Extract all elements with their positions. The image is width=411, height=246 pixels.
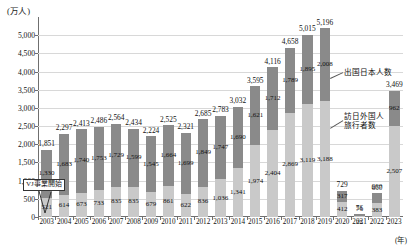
x-tick-label: 2007 — [109, 218, 123, 226]
bar-column[interactable]: 1,699622 — [181, 133, 191, 217]
x-tick-mark — [212, 217, 213, 220]
bar-column[interactable]: 1,7471,036 — [215, 116, 225, 217]
bar-segment-outbound[interactable]: 2,008 — [320, 28, 330, 101]
x-tick-mark — [299, 217, 300, 220]
x-tick-label: 2020 — [335, 218, 349, 226]
bar-column[interactable]: 1,664861 — [163, 125, 173, 217]
bar-segment-inbound[interactable]: 622 — [181, 194, 191, 217]
bar-total-label: 2,224 — [143, 127, 160, 134]
y-axis-unit-label: (万人) — [7, 4, 30, 16]
x-tick-label: 2015 — [248, 218, 262, 226]
bar-segment-inbound[interactable]: 733 — [94, 190, 104, 217]
bar-segment-inbound[interactable]: 835 — [128, 187, 138, 217]
bar-column[interactable]: 5125 — [354, 214, 364, 217]
x-tick-label: 2006 — [92, 218, 106, 226]
x-tick-label: 2005 — [74, 218, 88, 226]
bar-value-outbound: 1,664 — [160, 152, 176, 159]
y-tick-label: 500 — [24, 194, 35, 203]
bar-segment-outbound[interactable]: 1,621 — [250, 86, 260, 145]
bar-total-label: 2,564 — [108, 114, 125, 121]
bar-segment-inbound[interactable]: 412 — [337, 202, 347, 217]
bar-total-label: 2,321 — [177, 123, 194, 130]
y-tick-label: 2,000 — [18, 140, 35, 149]
bar-segment-outbound[interactable]: 962 — [389, 91, 399, 126]
bar-segment-inbound[interactable]: 2,404 — [267, 130, 277, 217]
bar-column[interactable]: 1,545679 — [146, 136, 156, 217]
x-tick-mark — [333, 217, 334, 220]
x-tick-mark — [73, 217, 74, 220]
bar-column[interactable]: 1,7122,404 — [267, 67, 277, 217]
bar-total-label: 4,116 — [264, 58, 280, 65]
bar-segment-outbound[interactable]: 1,729 — [111, 124, 121, 187]
bar-value-inbound: 3,119 — [300, 157, 316, 164]
x-tick-mark — [108, 217, 109, 220]
bar-segment-inbound[interactable]: 2,869 — [285, 113, 295, 217]
bar-value-outbound: 1,712 — [265, 95, 281, 102]
bar-segment-inbound[interactable]: 1,974 — [250, 145, 260, 217]
bar-column[interactable]: 1,753733 — [94, 127, 104, 217]
bar-value-outbound: 317 — [337, 193, 348, 200]
bar-total-label: 3,032 — [230, 97, 247, 104]
x-tick-label: 2012 — [196, 218, 210, 226]
bar-segment-outbound[interactable]: 1,699 — [181, 133, 191, 195]
bar-segment-inbound[interactable]: 2,507 — [389, 126, 399, 217]
bar-value-outbound: 1,747 — [213, 144, 229, 151]
bar-column[interactable]: 277383 — [372, 193, 382, 217]
bar-segment-inbound[interactable]: 836 — [198, 187, 208, 217]
bar-column[interactable]: 1,740673 — [76, 129, 86, 217]
bar-value-inbound: 622 — [180, 202, 191, 209]
bar-total-label: 2,434 — [125, 119, 142, 126]
bar-segment-inbound[interactable]: 835 — [111, 187, 121, 217]
x-tick-mark — [90, 217, 91, 220]
bar-segment-outbound[interactable]: 1,599 — [128, 129, 138, 187]
bar-segment-outbound[interactable]: 1,747 — [215, 116, 225, 180]
x-tick-mark — [177, 217, 178, 220]
bar-total-label: 2,413 — [73, 120, 90, 127]
x-tick-label: 2019 — [318, 218, 332, 226]
bar-segment-inbound[interactable]: 673 — [76, 193, 86, 217]
bar-segment-outbound[interactable]: 1,753 — [94, 127, 104, 191]
bar-value-inbound: 835 — [128, 198, 139, 205]
bar-segment-inbound[interactable]: 1,341 — [233, 168, 243, 217]
bar-column[interactable]: 1,729835 — [111, 124, 121, 217]
bar-column[interactable]: 9622,507 — [389, 91, 399, 217]
bar-segment-outbound[interactable]: 1,789 — [285, 48, 295, 113]
bar-column[interactable]: 1,7892,869 — [285, 48, 295, 217]
bar-segment-outbound[interactable]: 1,740 — [76, 129, 86, 192]
bar-value-outbound: 1,690 — [230, 134, 246, 141]
bar-total-label: 76 — [356, 205, 363, 212]
x-tick-label: 2021 — [352, 218, 366, 226]
x-tick-label: 2022 — [370, 218, 384, 226]
bar-segment-inbound[interactable]: 861 — [163, 186, 173, 217]
bar-segment-outbound[interactable]: 1,895 — [302, 35, 312, 104]
bar-column[interactable]: 1,6901,341 — [233, 107, 243, 217]
bar-segment-outbound[interactable]: 1,545 — [146, 136, 156, 192]
bar-column[interactable]: 1,849836 — [198, 119, 208, 217]
bar-value-outbound: 1,729 — [108, 152, 124, 159]
bar-total-label: 3,595 — [247, 77, 264, 84]
bar-segment-inbound[interactable]: 3,119 — [302, 104, 312, 217]
bar-value-inbound: 2,869 — [282, 161, 298, 168]
bar-segment-outbound[interactable]: 317 — [337, 191, 347, 203]
bar-column[interactable]: 2,0083,188 — [320, 28, 330, 217]
bar-column[interactable]: 1,6211,974 — [250, 86, 260, 217]
x-tick-mark — [247, 217, 248, 220]
bar-column[interactable]: 1,599835 — [128, 129, 138, 218]
bar-segment-outbound[interactable]: 1,690 — [233, 107, 243, 168]
bar-segment-outbound[interactable]: 1,664 — [163, 125, 173, 186]
bar-segment-outbound[interactable]: 1,849 — [198, 119, 208, 186]
bar-column[interactable]: 317412 — [337, 191, 347, 218]
bar-segment-inbound[interactable]: 383 — [372, 203, 382, 217]
bar-value-inbound: 861 — [163, 198, 174, 205]
x-tick-mark — [316, 217, 317, 220]
bar-segment-inbound[interactable]: 679 — [146, 192, 156, 217]
bar-segment-inbound[interactable]: 25 — [354, 216, 364, 217]
x-tick-mark — [351, 217, 352, 220]
bar-segment-inbound[interactable]: 3,188 — [320, 101, 330, 217]
bar-segment-outbound[interactable]: 277 — [372, 193, 382, 203]
bar-segment-outbound[interactable]: 1,712 — [267, 67, 277, 129]
bar-segment-inbound[interactable]: 1,036 — [215, 179, 225, 217]
x-tick-label: 2017 — [283, 218, 297, 226]
bar-column[interactable]: 1,8953,119 — [302, 35, 312, 217]
x-tick-mark — [125, 217, 126, 220]
